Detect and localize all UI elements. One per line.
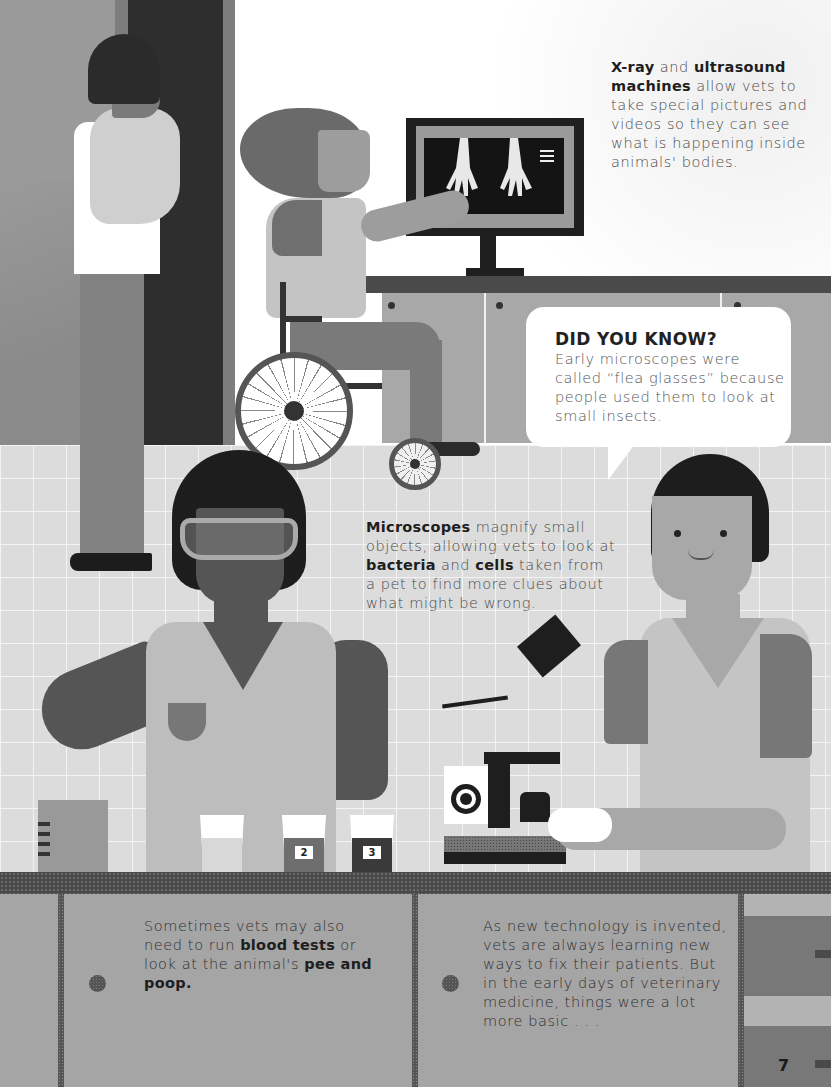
blood-tests-term: blood tests [240,937,335,953]
eye [674,530,681,537]
did-you-know-body: Early microscopes were called “flea glas… [555,350,785,426]
white-glove [548,808,612,842]
eye [720,530,727,537]
microscope-arm [488,764,510,828]
measuring-beaker [38,800,108,872]
cabinet-knob [388,302,395,309]
vet-face [318,130,370,192]
microscope-light-center [460,793,472,805]
beaker-mark [38,852,50,856]
tests-caption: Sometimes vets may also need to run bloo… [144,917,384,993]
drawer-gap [744,894,831,916]
beaker-mark [38,842,50,846]
technology-caption: As new technology is invented, vets are … [483,917,733,1031]
drawer-handle [815,950,831,958]
cells-term: cells [475,557,514,573]
vet-face [652,496,752,600]
cabinet-knob [496,302,503,309]
vet-hair [88,34,160,104]
smile [688,550,714,560]
drawer-gap [744,996,831,1026]
vet-trousers [80,274,144,554]
cabinet-seam [412,894,418,1087]
cabinet-divider [484,293,486,443]
sample-fill [202,838,242,873]
vet-shin [410,340,442,450]
drawer-handle [815,1060,831,1068]
bacteria-term: bacteria [366,557,436,573]
page-number: 7 [778,1056,789,1075]
cabinet-knob [89,975,106,992]
microscope-focus [520,792,550,822]
vet-sleeve [604,640,648,744]
microscope-base [444,836,566,852]
xray-caption: X-ray and ultrasound machines allow vets… [611,58,821,172]
scrubs-pocket [168,703,206,741]
microscope-stage [484,752,560,764]
menu-icon [540,160,554,162]
safety-goggles-icon [180,518,298,560]
caption-text: and [654,59,694,75]
monitor-base [466,268,524,276]
vet-sleeve [272,200,322,256]
wheelchair-armrest [286,316,322,322]
microscopes-term: Microscopes [366,519,470,535]
lab-counter-top [0,872,831,894]
caption-text: and [436,557,476,573]
cabinet-seam [58,894,64,1087]
did-you-know-bubble: DID YOU KNOW? Early microscopes were cal… [526,307,791,447]
cat-illustration [90,108,180,224]
scrubs-neckline [672,618,764,688]
microscope-foot [444,852,566,864]
cup-label: 3 [363,846,381,859]
beaker-mark [38,822,50,826]
did-you-know-title: DID YOU KNOW? [555,329,791,349]
microscope-caption: Microscopes magnify small objects, allow… [366,518,616,613]
scrubs-neckline [203,622,283,690]
menu-icon [540,155,554,157]
monitor-stand [480,236,496,270]
cup-label: 2 [295,846,313,859]
caster-hub [410,459,420,469]
vet-sleeve [760,634,812,758]
desk-top [362,276,831,293]
book-page: DID YOU KNOW? Early microscopes were cal… [0,0,831,1087]
wheel-hub [284,401,304,421]
menu-icon [540,150,554,152]
cabinet-knob [442,975,459,992]
beaker-mark [38,832,50,836]
vet-shoe [70,553,152,571]
xray-term: X-ray [611,59,654,75]
